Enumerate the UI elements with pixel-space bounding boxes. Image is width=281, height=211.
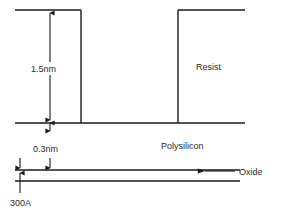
resist-height-label: 1.5nm (31, 64, 56, 74)
polysilicon-thickness-label: 0.3nm (33, 144, 58, 154)
polysilicon-label: Polysilicon (161, 141, 204, 151)
cross-section-diagram: 1.5nm 0.3nm 300A Oxide Resist Polysilico… (0, 0, 281, 211)
dimension-polysilicon-thickness: 0.3nm (20, 123, 58, 168)
diagram-canvas: 1.5nm 0.3nm 300A Oxide Resist Polysilico… (0, 0, 281, 211)
oxide-callout: Oxide (205, 167, 263, 177)
dimension-oxide-thickness: 300A (10, 173, 31, 208)
dimension-resist-height: 1.5nm (30, 13, 71, 120)
oxide-label: Oxide (239, 167, 263, 177)
resist-label: Resist (196, 62, 222, 72)
oxide-thickness-label: 300A (10, 198, 31, 208)
